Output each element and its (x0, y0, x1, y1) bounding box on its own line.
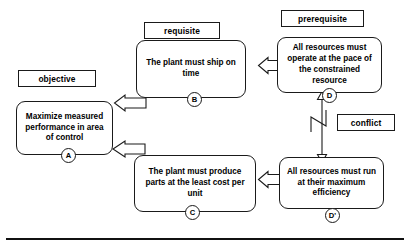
tag-requisite-label: requisite (164, 26, 200, 36)
entity-box-d-text: All resources must operate at the pace o… (282, 43, 377, 87)
marker-c: C (185, 205, 200, 220)
marker-c-label: C (190, 208, 195, 217)
marker-dprime: D' (325, 208, 340, 223)
entity-box-a-text: Maximize measured performance in area of… (21, 112, 108, 145)
marker-b: B (187, 92, 202, 107)
entity-box-d[interactable]: All resources must operate at the pace o… (277, 37, 382, 93)
diagram-canvas: objective requisite prerequisite conflic… (0, 0, 413, 252)
entity-box-a[interactable]: Maximize measured performance in area of… (16, 101, 113, 155)
tag-prerequisite: prerequisite (281, 10, 364, 27)
marker-a: A (61, 148, 76, 163)
entity-box-c[interactable]: The plant must produce parts at the leas… (134, 155, 256, 212)
entity-box-c-text: The plant must produce parts at the leas… (139, 167, 251, 200)
tag-objective: objective (18, 70, 96, 87)
entity-box-b[interactable]: The plant must ship on time (136, 40, 246, 98)
bottom-divider (6, 238, 404, 240)
tag-requisite: requisite (144, 22, 220, 39)
marker-b-label: B (192, 95, 197, 104)
tag-conflict: conflict (337, 114, 395, 131)
connector-dprime-to-c (259, 172, 282, 188)
tag-conflict-label: conflict (351, 118, 382, 128)
marker-d-label: D (327, 91, 332, 100)
entity-box-b-text: The plant must ship on time (141, 58, 241, 80)
marker-a-label: A (66, 151, 71, 160)
entity-box-dprime-text: All resources must run at their maximum … (284, 167, 379, 200)
entity-box-dprime[interactable]: All resources must run at their maximum … (279, 157, 384, 209)
marker-dprime-label: D' (329, 211, 336, 220)
connector-d-to-b (259, 58, 279, 74)
tag-prerequisite-label: prerequisite (298, 14, 347, 24)
tag-objective-label: objective (38, 74, 75, 84)
marker-d: D (322, 88, 337, 103)
connector-conflict-d-dprime (311, 92, 327, 163)
